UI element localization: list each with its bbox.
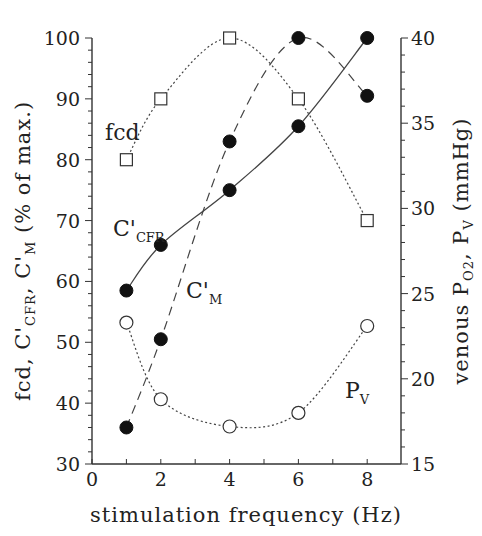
y-right-tick-label: 40 (411, 27, 435, 49)
pv-open-circle-marker (361, 319, 374, 332)
pv-open-circle-marker (120, 316, 133, 329)
cm-filled-circle-marker (120, 421, 133, 434)
chart: 3040506070809010015202530354002468 fcd C… (0, 0, 482, 536)
fcd-square-marker (361, 215, 373, 227)
pv-open-circle-marker (223, 420, 236, 433)
pv-label: PV (345, 378, 370, 407)
ccfr-filled-circle-marker (361, 32, 374, 45)
cm-filled-circle-marker (154, 333, 167, 346)
fcd-label: fcd (105, 120, 140, 145)
ccfr-filled-circle-marker (223, 184, 236, 197)
y-left-tick-label: 50 (56, 331, 80, 353)
y-right-tick-label: 15 (411, 453, 435, 475)
y-right-tick-label: 35 (411, 112, 435, 134)
x-axis-title: stimulation frequency (Hz) (90, 503, 402, 527)
y-left-tick-label: 70 (56, 210, 80, 232)
x-tick-label: 6 (292, 468, 304, 490)
x-tick-label: 0 (86, 468, 98, 490)
fcd-square-marker (224, 32, 236, 44)
cm-filled-circle-marker (292, 32, 305, 45)
y-left-tick-label: 30 (56, 453, 80, 475)
x-tick-label: 2 (155, 468, 167, 490)
pv-open-circle-marker (292, 406, 305, 419)
y-left-tick-label: 100 (44, 27, 80, 49)
ccfr-curve (126, 38, 367, 291)
fcd-square-marker (155, 93, 167, 105)
y-right-tick-label: 30 (411, 197, 435, 219)
x-tick-label: 8 (361, 468, 373, 490)
cm-filled-circle-marker (223, 135, 236, 148)
y-right-tick-label: 20 (411, 368, 435, 390)
y-right-tick-label: 25 (411, 283, 435, 305)
y-left-tick-label: 90 (56, 88, 80, 110)
y-left-tick-label: 40 (56, 392, 80, 414)
fcd-square-marker (292, 93, 304, 105)
ccfr-filled-circle-marker (292, 120, 305, 133)
cm-label: C'M (186, 278, 222, 307)
ccfr-label: C'CFR (113, 216, 166, 245)
x-tick-label: 4 (224, 468, 236, 490)
y-left-tick-label: 80 (56, 149, 80, 171)
cm-filled-circle-marker (361, 89, 374, 102)
axes: 3040506070809010015202530354002468 (44, 27, 435, 490)
pv-open-circle-marker (154, 393, 167, 406)
ccfr-filled-circle-marker (120, 284, 133, 297)
fcd-square-marker (120, 154, 132, 166)
y-left-tick-label: 60 (56, 270, 80, 292)
y-right-axis-title: venous PO2, PV (mmHg) (449, 117, 476, 385)
fcd-curve (126, 38, 367, 221)
y-left-axis-title: fcd, C'CFR, C'M (% of max.) (11, 101, 38, 401)
